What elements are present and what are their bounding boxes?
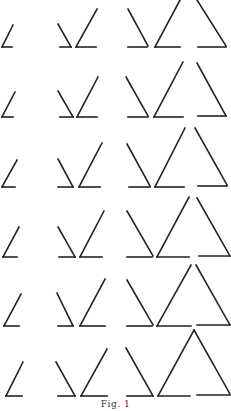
line-figure-drawing	[0, 0, 231, 411]
small-angle-slant	[2, 160, 17, 187]
figure-caption: Fig. 1	[0, 399, 231, 409]
tri-mid-slant	[155, 0, 180, 47]
figure-row-6	[6, 330, 230, 396]
small-angle-slant	[2, 25, 13, 47]
figure-row-5	[4, 265, 230, 326]
tri-left-slant	[127, 144, 150, 186]
tri-mid-slant	[154, 62, 183, 117]
tri-right-slant	[197, 0, 226, 46]
figure-row-2	[2, 62, 226, 117]
pair-left-slant	[56, 362, 75, 396]
pair-right-slant	[76, 9, 97, 47]
tri-left-slant	[126, 348, 153, 396]
figure-row-1	[2, 0, 226, 47]
small-angle-slant	[3, 227, 19, 257]
figure-row-3	[2, 128, 227, 187]
pair-left-slant	[57, 293, 73, 326]
small-angle-slant	[4, 294, 21, 326]
pair-left-slant	[58, 91, 73, 117]
tri-left-slant	[127, 280, 153, 325]
pair-right-slant	[81, 349, 107, 396]
pair-left-slant	[58, 159, 73, 187]
tri-right-slant	[196, 265, 230, 325]
tri-left-slant	[126, 77, 148, 116]
tri-mid-slant	[157, 265, 191, 326]
pair-right-slant	[80, 211, 104, 257]
tri-mid-slant	[155, 128, 185, 187]
tri-right-slant	[197, 63, 226, 116]
pair-right-slant	[79, 143, 102, 187]
tri-right-slant	[195, 128, 227, 185]
pair-left-slant	[58, 24, 71, 47]
figure-row-4	[3, 197, 230, 257]
tri-right-slant	[194, 330, 230, 394]
tri-mid-slant	[158, 330, 194, 396]
small-angle-slant	[2, 92, 15, 117]
tri-left-slant	[128, 9, 148, 46]
tri-right-slant	[197, 198, 230, 256]
small-angle-slant	[6, 362, 23, 396]
figure: Fig. 1	[0, 0, 231, 411]
pair-left-slant	[58, 227, 75, 257]
tri-mid-slant	[157, 197, 189, 257]
pair-right-slant	[77, 77, 98, 117]
pair-right-slant	[80, 279, 105, 326]
tri-left-slant	[127, 211, 153, 256]
